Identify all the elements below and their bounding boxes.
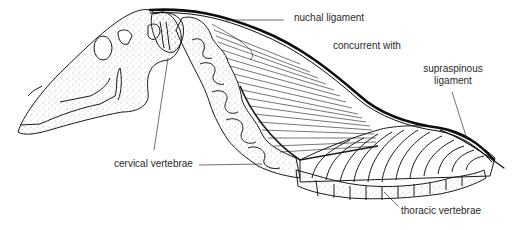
supraspinous-leader (452, 92, 466, 136)
horse-skeleton-illustration (0, 0, 520, 230)
anatomy-diagram: nuchal ligament concurrent with supraspi… (0, 0, 520, 230)
label-supraspinous-line1: supraspinous (415, 63, 491, 75)
label-cervical-vertebrae: cervical vertebrae (114, 158, 193, 170)
label-supraspinous-line2: ligament (415, 75, 491, 87)
label-concurrent-with: concurrent with (333, 40, 401, 52)
cervical-leader-right (199, 164, 262, 165)
label-supraspinous-ligament: supraspinous ligament (415, 63, 491, 87)
cervical-leader-up (154, 58, 168, 150)
cervical-vertebrae-chain (176, 17, 300, 178)
thoracic-vertebral-bodies (296, 170, 486, 200)
label-nuchal-ligament: nuchal ligament (294, 12, 364, 24)
label-thoracic-vertebrae: thoracic vertebrae (401, 205, 481, 217)
